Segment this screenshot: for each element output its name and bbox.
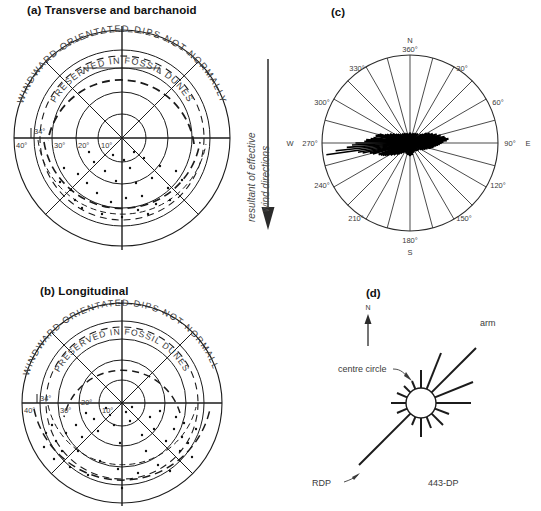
panel-a-dip-plot: WINDWARD ORIENTATED DIPS NOT NORMALLY PR… xyxy=(0,18,245,263)
ring-label-40: 40° xyxy=(16,141,27,150)
rose-spike-group xyxy=(326,132,448,156)
arm-338 xyxy=(412,381,415,389)
arrow-label-line1: resultant of effective xyxy=(246,133,257,223)
centre-circle-label: centre circle xyxy=(338,364,387,374)
scatter-points-b xyxy=(43,406,197,489)
panel-c-title: (c) xyxy=(331,6,345,18)
outer-arc-text-b: WINDWARD ORIENTATED DIPS NOT NORMALLY xyxy=(21,298,221,405)
dp-value-label: 443-DP xyxy=(428,478,459,488)
rdp-arrowhead xyxy=(352,473,360,480)
ring-label-10-b: 10° xyxy=(102,406,113,415)
ring-label-20-b: 20° xyxy=(81,398,92,407)
arm-158 xyxy=(427,417,431,428)
rose-label-150: 150° xyxy=(456,214,472,223)
panel-d-sand-rose: N xyxy=(300,296,541,511)
ring-label-30-b: 30° xyxy=(60,406,71,415)
arm-label: arm xyxy=(480,318,496,328)
rose-label-W: W xyxy=(286,139,294,148)
rose-label-120: 120° xyxy=(490,181,506,190)
ring-label-10: 10° xyxy=(101,141,112,150)
panel-d-svg: N xyxy=(300,296,541,511)
arm-225-rdp xyxy=(359,414,410,465)
centre-circle-arrowhead xyxy=(404,372,412,381)
panel-c-svg: N 360° 30° 60° 90° E 120° 150° 180° S 21… xyxy=(300,22,541,257)
arm-292 xyxy=(397,393,407,397)
arm-202 xyxy=(412,417,415,425)
ring-label-34: 34° xyxy=(34,127,45,136)
rose-label-300: 300° xyxy=(314,98,330,107)
ring-label-34-b: 34° xyxy=(40,394,51,403)
rose-label-330: 330° xyxy=(349,64,365,73)
rose-label-S: S xyxy=(407,248,412,257)
ring-label-30: 30° xyxy=(54,141,65,150)
arm-135 xyxy=(432,414,443,425)
arm-248 xyxy=(397,409,407,413)
rose-label-E: E xyxy=(525,139,530,148)
rose-label-30: 30° xyxy=(456,64,467,73)
panel-b-title: (b) Longitudinal xyxy=(40,285,128,297)
north-label: N xyxy=(365,304,370,311)
arm-22 xyxy=(427,353,441,389)
arrow-label-line2: wind directions xyxy=(260,146,271,212)
panel-c-rose: N 360° 30° 60° 90° E 120° 150° 180° S 21… xyxy=(300,22,541,257)
rose-label-210: 210° xyxy=(348,214,364,223)
rose-label-360: 360° xyxy=(402,45,418,54)
north-arrow-head xyxy=(365,314,372,324)
panel-a-title: (a) Transverse and barchanoid xyxy=(27,4,197,16)
arm-113 xyxy=(435,409,449,414)
panel-b-svg: WINDWARD ORIENTATED DIPS NOT NORMALLY PR… xyxy=(0,298,245,511)
arm-45 xyxy=(432,348,476,392)
rose-label-180: 180° xyxy=(402,236,418,245)
rose-label-270: 270° xyxy=(302,139,318,148)
centre-circle xyxy=(406,388,436,418)
panel-a-svg: WINDWARD ORIENTATED DIPS NOT NORMALLY PR… xyxy=(0,18,245,263)
rose-label-90: 90° xyxy=(504,139,515,148)
rose-label-60: 60° xyxy=(492,98,503,107)
panel-b-dip-plot: WINDWARD ORIENTATED DIPS NOT NORMALLY PR… xyxy=(0,298,245,511)
rose-label-240: 240° xyxy=(314,181,330,190)
ring-label-20: 20° xyxy=(78,141,89,150)
arm-315 xyxy=(404,386,410,392)
ring-label-40-b: 40° xyxy=(24,406,35,415)
rdp-label: RDP xyxy=(312,478,331,488)
rose-label-N: N xyxy=(407,36,412,45)
